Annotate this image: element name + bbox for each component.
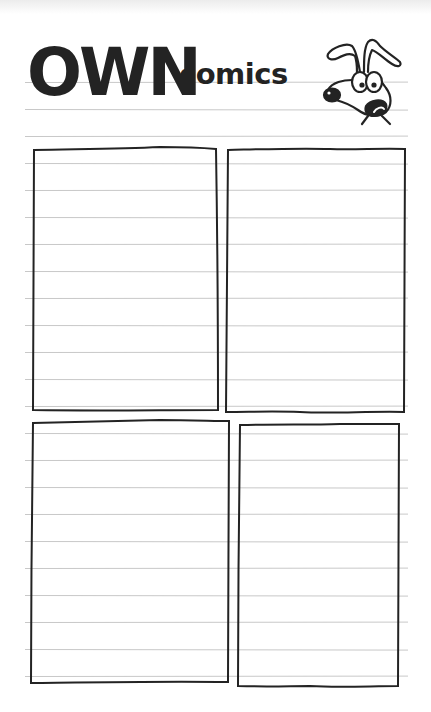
comic-panels — [0, 0, 431, 712]
comic-panel-4[interactable] — [0, 0, 431, 712]
comic-template-page: OWN comics — [0, 0, 431, 712]
